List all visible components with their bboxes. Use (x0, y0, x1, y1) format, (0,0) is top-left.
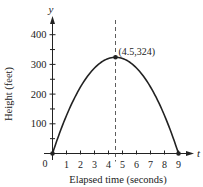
y-axis-arrow-icon (50, 16, 55, 24)
x-tick-label: 3 (92, 159, 97, 170)
x-tick-label: 5 (120, 159, 125, 170)
y-tick-label: 200 (31, 89, 47, 100)
y-tick-labels: 100200300400 (31, 29, 47, 129)
y-tick-label: 400 (31, 29, 47, 40)
x-tick-label: 2 (78, 159, 83, 170)
x-axis-arrow-icon (186, 151, 194, 156)
axes (44, 22, 188, 160)
x-axis-variable: t (197, 147, 201, 159)
x-tick-label: 4 (106, 159, 111, 170)
y-tick-label: 100 (31, 118, 47, 129)
vertex-label: (4.5,324) (119, 46, 156, 58)
projectile-height-chart: 100200300400 123456789 y t 0 Elapsed tim… (0, 0, 203, 187)
x-tick-label: 9 (176, 159, 181, 170)
x-tick-label: 6 (134, 159, 139, 170)
y-axis-variable: y (48, 3, 54, 15)
x-tick-label: 8 (162, 159, 167, 170)
y-tick-label: 300 (31, 59, 47, 70)
data-point (50, 151, 55, 156)
x-axis-label: Elapsed time (seconds) (69, 174, 167, 186)
data-point (176, 151, 181, 156)
x-tick-label: 7 (148, 159, 153, 170)
x-tick-label: 1 (64, 159, 69, 170)
x-tick-labels: 123456789 (64, 159, 181, 170)
data-point (113, 55, 118, 60)
y-axis-label: Height (feet) (3, 67, 15, 121)
origin-label: 0 (43, 158, 48, 169)
